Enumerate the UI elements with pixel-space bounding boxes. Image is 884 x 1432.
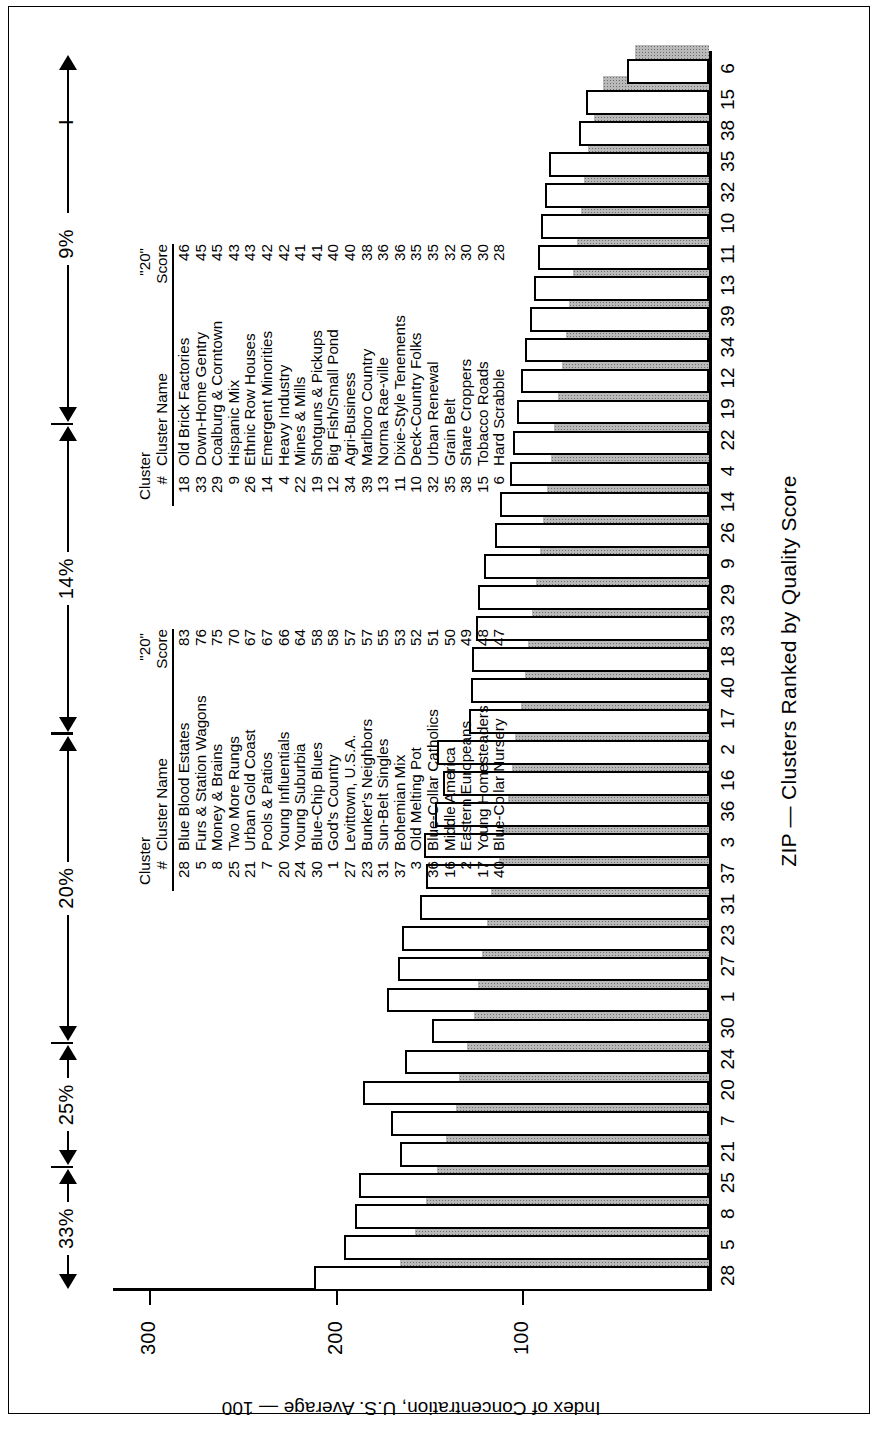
bar-group [113, 920, 709, 951]
bar-group [113, 889, 709, 920]
bracket-line-right [67, 433, 69, 553]
table-row: 18Old Brick Factories46 [176, 244, 193, 506]
cell-score: 47 [491, 629, 508, 663]
cell-cluster-number: 2 [458, 851, 475, 891]
percent-bracket: 33% [51, 1169, 85, 1289]
table-left-rows: 28Blue Blood Estates835Furs & Station Wa… [176, 629, 508, 891]
bar-outline [314, 1266, 709, 1291]
cell-cluster-name: Agri-Business [342, 278, 359, 466]
x-tick-label: 39 [717, 301, 739, 332]
cell-cluster-number: 22 [292, 466, 309, 506]
bar-group [113, 1167, 709, 1198]
bar-group [113, 982, 709, 1013]
bar-group [113, 115, 709, 146]
cell-score: 35 [425, 244, 442, 278]
bar-group [113, 1105, 709, 1136]
table-row: 20Young Influentials66 [276, 629, 293, 891]
bar-outline [525, 338, 709, 363]
x-tick-label: 18 [717, 641, 739, 672]
cell-score: 43 [226, 244, 243, 278]
dash-mark: I [55, 119, 78, 125]
cell-cluster-name: Two More Rungs [226, 663, 243, 851]
x-tick-label: 13 [717, 270, 739, 301]
x-tick-label: 26 [717, 517, 739, 548]
cell-score: 46 [176, 244, 193, 278]
table-row: 26Ethnic Row Houses43 [242, 244, 259, 506]
bar-group [113, 579, 709, 610]
bracket-line-left [67, 258, 69, 416]
cell-cluster-number: 12 [325, 466, 342, 506]
cell-cluster-number: 24 [292, 851, 309, 891]
y-tick-mark [522, 1289, 524, 1305]
cell-cluster-name: Sun-Belt Singles [375, 663, 392, 851]
bar-group [113, 548, 709, 579]
table-row: 28Blue Blood Estates83 [176, 629, 193, 891]
cell-score: 75 [209, 629, 226, 663]
bar-group [113, 84, 709, 115]
bar-outline [484, 554, 709, 579]
cell-score: 83 [176, 629, 193, 663]
cell-score: 40 [325, 244, 342, 278]
cell-cluster-number: 6 [491, 466, 508, 506]
bar-outline [359, 1173, 709, 1198]
table-row: 31Sun-Belt Singles55 [375, 629, 392, 891]
bracket-line-right [67, 62, 69, 213]
cell-cluster-name: Furs & Station Wagons [193, 663, 210, 851]
bar-outline [510, 462, 709, 487]
table-row: 35Grain Belt32 [442, 244, 459, 506]
x-tick-label: 5 [717, 1229, 739, 1260]
table-row: 39Marlboro Country38 [359, 244, 376, 506]
table-left-rule [172, 629, 174, 891]
cell-cluster-name: Bohemian Mix [392, 663, 409, 851]
x-tick-label: 11 [717, 239, 739, 270]
cell-cluster-number: 20 [276, 851, 293, 891]
bracket-arrow-right [59, 426, 77, 441]
cell-cluster-name: Young Suburbia [292, 663, 309, 851]
cell-cluster-number: 11 [392, 466, 409, 506]
cell-cluster-number: 29 [209, 466, 226, 506]
cell-cluster-name: Emergent Minorities [259, 278, 276, 466]
y-tick-label: 300 [137, 1321, 160, 1375]
cell-score: 67 [259, 629, 276, 663]
cell-cluster-name: Urban Gold Coast [242, 663, 259, 851]
table-left-group-header: Cluster [137, 837, 154, 885]
cell-cluster-number: 36 [425, 851, 442, 891]
cell-cluster-name: Heavy Industry [276, 278, 293, 466]
bar-outline [586, 90, 709, 115]
cell-cluster-number: 7 [259, 851, 276, 891]
x-tick-label: 14 [717, 486, 739, 517]
cell-cluster-number: 4 [276, 466, 293, 506]
cell-score: 32 [442, 244, 459, 278]
cell-score: 42 [276, 244, 293, 278]
bar-outline [405, 1050, 709, 1075]
cell-score: 52 [408, 629, 425, 663]
cell-cluster-name: Pools & Patios [259, 663, 276, 851]
bar-outline [476, 616, 709, 641]
cell-cluster-name: Grain Belt [442, 278, 459, 466]
table-row: 34Agri-Business40 [342, 244, 359, 506]
table-left-col-num: # [154, 851, 171, 891]
cell-score: 36 [375, 244, 392, 278]
cell-cluster-name: Marlboro Country [359, 278, 376, 466]
cell-cluster-name: Big Fish/Small Pond [325, 278, 342, 466]
table-row: 7Pools & Patios67 [259, 629, 276, 891]
bracket-line-right [67, 743, 69, 863]
table-left-col-name: Cluster Name [154, 758, 171, 851]
x-tick-label: 37 [717, 858, 739, 889]
x-tick-label: 34 [717, 332, 739, 363]
bar-outline [513, 431, 709, 456]
bar-outline [541, 214, 709, 239]
cell-score: 55 [375, 629, 392, 663]
cell-cluster-number: 21 [242, 851, 259, 891]
table-row: 11Dixie-Style Tenements36 [392, 244, 409, 506]
cell-score: 38 [359, 244, 376, 278]
x-tick-label: 27 [717, 951, 739, 982]
cell-score: 67 [242, 629, 259, 663]
cell-cluster-name: Mines & Mills [292, 278, 309, 466]
bar-group [113, 951, 709, 982]
x-tick-label: 8 [717, 1198, 739, 1229]
bar-group [113, 1012, 709, 1043]
cell-cluster-number: 37 [392, 851, 409, 891]
bar-outline [398, 957, 709, 982]
cell-cluster-name: Urban Renewal [425, 278, 442, 466]
